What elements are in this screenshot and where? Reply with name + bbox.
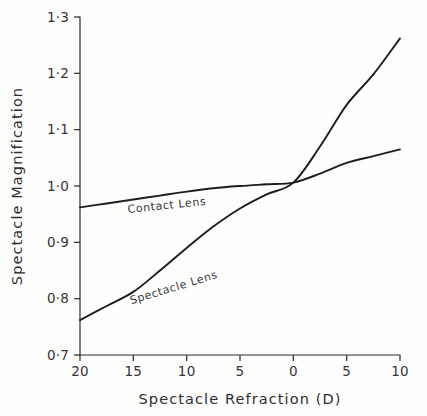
x-axis-title: Spectacle Refraction (D) <box>139 391 342 407</box>
x-axis-ticks: 20151050510 <box>71 355 409 379</box>
x-tick-label: 0 <box>289 363 298 379</box>
x-tick-label: 20 <box>71 363 89 379</box>
x-tick-label: 10 <box>178 363 196 379</box>
series-curve <box>80 149 400 207</box>
y-tick-label: 0·9 <box>47 234 69 250</box>
chart-figure: 0·70·80·91·01·11·21·3 20151050510 Contac… <box>0 0 427 416</box>
y-axis-title: Spectacle Magnification <box>9 87 25 285</box>
y-tick-label: 0·8 <box>47 290 69 306</box>
x-tick-label: 10 <box>391 363 409 379</box>
y-tick-label: 1·3 <box>47 9 69 25</box>
series-curve <box>80 38 400 320</box>
series-inline-labels: Contact LensSpectacle Lens <box>127 195 219 307</box>
y-tick-label: 0·7 <box>47 347 69 363</box>
y-axis-ticks: 0·70·80·91·01·11·21·3 <box>47 9 80 363</box>
y-tick-label: 1·1 <box>47 121 69 137</box>
y-tick-label: 1·2 <box>47 65 69 81</box>
x-tick-label: 5 <box>342 363 351 379</box>
line-chart: 0·70·80·91·01·11·21·3 20151050510 Contac… <box>0 0 427 416</box>
data-curves <box>80 38 400 320</box>
y-tick-label: 1·0 <box>47 178 69 194</box>
series-label: Spectacle Lens <box>128 268 219 307</box>
x-tick-label: 15 <box>125 363 143 379</box>
x-tick-label: 5 <box>236 363 245 379</box>
